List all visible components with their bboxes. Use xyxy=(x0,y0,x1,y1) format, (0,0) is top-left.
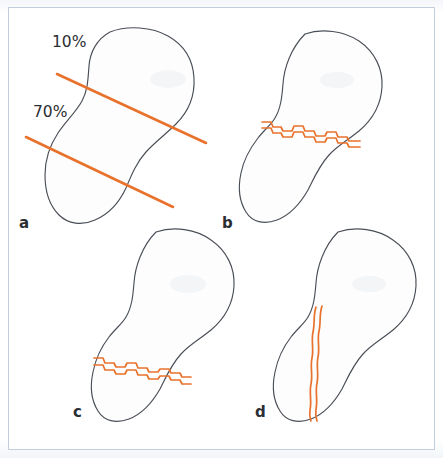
bone-outline-c xyxy=(91,229,234,421)
panel-letter-b: b xyxy=(222,214,233,232)
figure-canvas: 10% 70% a b c xyxy=(0,0,443,458)
panel-a: 10% 70% a xyxy=(19,28,206,232)
panel-letter-a: a xyxy=(19,214,29,232)
panel-letter-c: c xyxy=(73,403,82,421)
panel-b: b xyxy=(222,31,382,232)
label-10-percent: 10% xyxy=(52,33,86,51)
panel-c: c xyxy=(73,229,234,421)
bone-outline-d xyxy=(273,229,416,421)
figure-root: 10% 70% a b c xyxy=(0,0,443,458)
panel-letter-d: d xyxy=(255,403,266,421)
bone-outline-a xyxy=(45,28,194,224)
bone-outline-b xyxy=(239,31,382,222)
panel-d: d xyxy=(255,229,416,421)
figure-drawing: 10% 70% a b c xyxy=(0,0,443,458)
label-70-percent: 70% xyxy=(33,103,67,121)
